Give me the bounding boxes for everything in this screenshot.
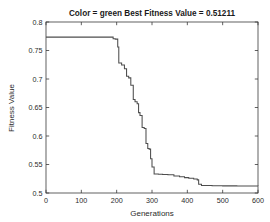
y-tick-label: 0.8 (33, 18, 43, 27)
x-tick-label: 100 (75, 196, 87, 205)
x-tick-label: 200 (111, 196, 123, 205)
chart-canvas: Color = green Best Fitness Value = 0.512… (0, 0, 270, 222)
fitness-plot-figure: Color = green Best Fitness Value = 0.512… (0, 0, 270, 222)
x-tick-label: 0 (44, 196, 48, 205)
x-tick-label: 600 (252, 196, 264, 205)
y-tick-label: 0.7 (33, 75, 43, 84)
chart-screenshot: Color = green Best Fitness Value = 0.512… (0, 0, 270, 222)
chart-title: Color = green Best Fitness Value = 0.512… (69, 9, 236, 18)
y-axis-label: Fitness Value (7, 84, 16, 132)
x-axis-label: Generations (130, 209, 174, 218)
y-tick-label: 0.65 (29, 103, 43, 112)
y-axis-ticks: 0.50.550.60.650.70.750.8 (29, 18, 259, 198)
y-tick-label: 0.5 (33, 189, 43, 198)
x-tick-label: 400 (181, 196, 193, 205)
x-tick-label: 300 (146, 196, 158, 205)
y-tick-label: 0.6 (33, 132, 43, 141)
y-tick-label: 0.75 (29, 46, 43, 55)
x-tick-label: 500 (217, 196, 229, 205)
y-tick-label: 0.55 (29, 160, 43, 169)
best-fitness-line (46, 37, 258, 186)
x-axis-ticks: 0100200300400500600 (44, 22, 264, 205)
